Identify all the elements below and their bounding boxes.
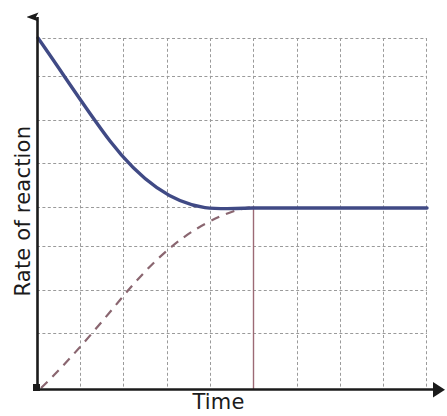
y-axis-label: Rate of reaction <box>13 137 34 297</box>
chart-canvas <box>0 0 447 416</box>
reaction-rate-chart: Rate of reaction Time <box>0 0 447 416</box>
reverse-rate-curve <box>41 207 253 388</box>
x-axis-label: Time <box>0 392 447 413</box>
grid-lines-horizontal <box>37 39 427 334</box>
forward-rate-curve <box>38 38 427 209</box>
axis-origin-cap <box>33 384 40 391</box>
